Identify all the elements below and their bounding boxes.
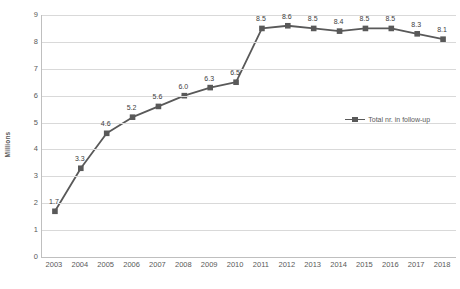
gridline	[42, 96, 456, 97]
y-axis-tick-label: 3	[14, 172, 38, 180]
data-label: 8.1	[437, 26, 447, 34]
data-label: 4.6	[101, 120, 111, 128]
gridline	[42, 230, 456, 231]
x-axis-tick-label: 2015	[356, 260, 373, 270]
x-axis-tick-label: 2003	[46, 260, 63, 270]
data-label: 6.3	[204, 75, 214, 83]
data-point-marker	[389, 26, 395, 32]
y-axis-tick-label: 5	[14, 119, 38, 127]
data-label: 8.5	[308, 15, 318, 23]
x-axis-tick-label: 2017	[408, 260, 425, 270]
chart-legend: Total nr. in follow-up	[345, 115, 430, 124]
x-axis-tick-label: 2011	[253, 260, 269, 270]
y-axis-tick-label: 0	[14, 253, 38, 261]
y-axis-tick-label: 9	[14, 11, 38, 19]
data-point-marker	[78, 165, 84, 171]
data-point-marker	[259, 26, 265, 32]
gridline	[42, 203, 456, 204]
data-point-marker	[52, 208, 58, 214]
y-axis-tick-labels: 0123456789	[14, 0, 38, 289]
data-point-marker	[414, 31, 420, 37]
gridline	[42, 69, 456, 70]
x-axis-tick-label: 2005	[97, 260, 114, 270]
data-label: 6.0	[178, 83, 188, 91]
data-point-marker	[130, 114, 136, 120]
x-axis-tick-label: 2018	[434, 260, 451, 270]
y-axis-tick-label: 7	[14, 65, 38, 73]
data-label: 8.5	[385, 15, 395, 23]
data-label: 8.6	[282, 13, 292, 21]
x-axis-tick-label: 2014	[330, 260, 347, 270]
x-axis-tick-label: 2016	[382, 260, 399, 270]
data-point-marker	[311, 26, 317, 32]
x-axis-tick-label: 2007	[149, 260, 166, 270]
data-label: 1.7	[49, 198, 59, 206]
data-label: 6.5	[230, 69, 240, 77]
gridline	[42, 149, 456, 150]
data-label: 8.5	[360, 15, 370, 23]
line-chart: Millions 0123456789 20032004200520062007…	[0, 0, 460, 289]
y-axis-tick-label: 8	[14, 38, 38, 46]
series-line-total-nr-in-follow-up	[42, 15, 456, 257]
data-label: 8.5	[256, 15, 266, 23]
x-axis-tick-label: 2010	[227, 260, 244, 270]
gridline	[42, 176, 456, 177]
y-axis-title: Millions	[0, 0, 14, 289]
x-axis-tick-label: 2012	[278, 260, 295, 270]
data-label: 8.4	[334, 18, 344, 26]
legend-marker-icon	[345, 115, 365, 124]
data-point-marker	[363, 26, 369, 32]
x-axis-tick-label: 2004	[71, 260, 88, 270]
x-axis-tick-label: 2013	[304, 260, 321, 270]
data-point-marker	[233, 79, 239, 85]
x-axis-tick-label: 2006	[123, 260, 140, 270]
plot-area	[41, 15, 456, 258]
data-point-marker	[104, 131, 110, 137]
data-label: 3.3	[75, 155, 85, 163]
legend-label: Total nr. in follow-up	[368, 116, 430, 123]
y-axis-tick-label: 6	[14, 92, 38, 100]
y-axis-tick-label: 2	[14, 199, 38, 207]
y-axis-tick-label: 4	[14, 145, 38, 153]
data-point-marker	[337, 28, 343, 34]
x-axis-tick-labels: 2003200420052006200720082009201020112012…	[41, 260, 455, 276]
data-point-marker	[207, 85, 213, 91]
data-point-marker	[156, 104, 162, 110]
gridline	[42, 42, 456, 43]
x-axis-tick-label: 2009	[201, 260, 218, 270]
y-axis-tick-label: 1	[14, 226, 38, 234]
data-label: 8.3	[411, 21, 421, 29]
data-label: 5.2	[127, 104, 137, 112]
data-label: 5.6	[153, 93, 163, 101]
data-point-marker	[285, 23, 291, 29]
x-axis-tick-label: 2008	[175, 260, 192, 270]
